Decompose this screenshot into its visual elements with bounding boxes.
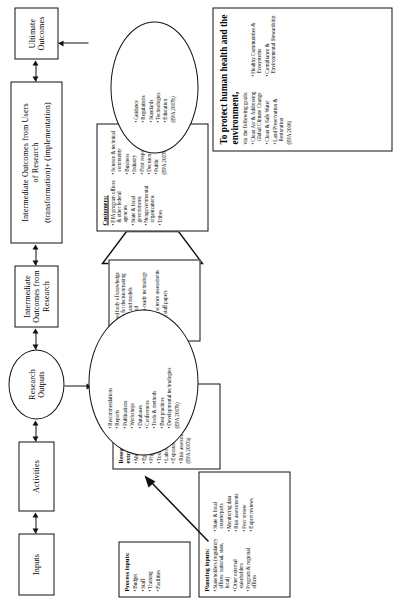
list-item: Publications (121, 336, 127, 428)
arrowhead-up (58, 40, 63, 46)
stage-inputs-label: Inputs (31, 553, 40, 574)
list-item: Staff (139, 546, 145, 591)
list-item: Land Preservation & Restoration (271, 81, 283, 144)
citation: (EPA 2007b) (173, 336, 179, 428)
list-item: Standards (147, 52, 153, 122)
stage-research-outputs-line2: Outputs (36, 371, 45, 398)
list-item: Databases (136, 336, 142, 428)
arrowhead-right (32, 420, 38, 425)
list-item: Peer review (240, 476, 246, 531)
stage-ultimate-outcomes: Ultimate Outcomes (14, 7, 58, 59)
arrowhead-left (32, 260, 38, 265)
stage-ultimate-line2: Outcomes (36, 16, 45, 50)
stage-ioc-research-line1: Intermediate (22, 275, 31, 318)
list-item: Guidance (132, 52, 138, 122)
stage-activities-label: Activities (31, 460, 40, 493)
list-item: Program & regional offices (244, 536, 256, 591)
list-item: Recommendations (106, 336, 112, 428)
stage-activities: Activities (18, 441, 54, 511)
list-item: Tools & methods (150, 336, 156, 428)
rotated-diagram-wrapper: Inputs Activities Research Outputs Inter… (0, 0, 402, 603)
stage-ioc-research-line3: Research (41, 281, 50, 312)
list-item: Reports (113, 336, 119, 428)
connector-inputs-to-research (140, 471, 212, 543)
stage-ultimate-line1: Ultimate (27, 18, 36, 47)
list-item: EPA program offices & other federal agen… (109, 179, 127, 225)
list-item: Monitoring data (225, 476, 231, 531)
list-item: Healthy Communities & Ecosystems (249, 13, 261, 76)
list-item: Technologies (154, 52, 160, 122)
goals-headline: To protect human health and the environm… (218, 13, 240, 144)
planning-inputs-list: Stakeholders (regulatory offices: nation… (211, 476, 256, 591)
research-outputs-list: Recommendations Reports Publications Wor… (106, 336, 179, 428)
customers-heading: Customers: (101, 128, 108, 225)
arrowhead-left (32, 528, 38, 533)
list-item: Clean & Safe Water (263, 81, 269, 144)
list-item: Clean Air & Addressing Global Climate Ch… (249, 81, 261, 144)
process-inputs-list: Budget Staff Training Facilities (131, 546, 159, 591)
list-item: State & local governments (129, 179, 141, 225)
connector-outputs-down (64, 385, 88, 386)
citation: (EPA 2006) (285, 13, 291, 144)
connector-outcomes-to-customers (100, 229, 204, 263)
logic-model-canvas: Inputs Activities Research Outputs Inter… (0, 0, 402, 603)
arrowhead-left (32, 436, 38, 441)
list-item: Budget (131, 546, 137, 591)
citation: (EPA 2007b) (169, 52, 175, 122)
stage-intermediate-outcomes-users: Intermediate Outcomes from Users of Rese… (10, 81, 62, 243)
list-item: Workshops (128, 336, 134, 428)
stage-research-outputs-line1: Research (27, 369, 36, 400)
arrowhead-right (32, 512, 38, 517)
arrowhead-left (32, 344, 38, 349)
goals-box: To protect human health and the environm… (212, 7, 392, 151)
list-item: Stakeholders (regulatory offices: nation… (211, 536, 229, 591)
user-outcomes-content: Guidance Regulations Standards Technolog… (132, 52, 176, 122)
stage-ioc-users-line2: of Research (30, 142, 39, 182)
goals-subline: via the following goals: (241, 13, 248, 144)
list-item: Tribes (156, 179, 162, 225)
research-outputs-oval: Recommendations Reports Publications Wor… (88, 309, 198, 455)
process-inputs-box: Process inputs: Budget Staff Training Fa… (118, 541, 190, 597)
stage-research-outputs: Research Outputs (8, 349, 64, 419)
list-item: Training (146, 546, 152, 591)
list-item: Compliance & Environmental Stewardship (263, 13, 275, 76)
arrowhead-right (32, 328, 38, 333)
arrowhead-right (32, 244, 38, 249)
stage-inputs: Inputs (18, 533, 54, 595)
list-item: Other external stakeholders (231, 536, 243, 591)
list-item: Regulations (139, 52, 145, 122)
list-item: Facilities (154, 546, 160, 591)
stage-ioc-users-line3: (transformation)+ (implementation) (42, 102, 51, 223)
stage-ioc-research-line2: Outcomes from (31, 270, 40, 322)
arrowhead-left (32, 76, 38, 81)
stage-ioc-users-line1: Intermediate Outcomes from Users (20, 103, 29, 221)
process-inputs-heading: Process inputs: (123, 546, 130, 591)
list-item: Expert reviews (247, 476, 253, 531)
research-outputs-content: Recommendations Reports Publications Wor… (106, 336, 180, 428)
user-outcomes-list: Guidance Regulations Standards Technolog… (132, 52, 175, 122)
list-item: Best practices (158, 336, 164, 428)
list-item: State & local counterparts (211, 476, 223, 531)
stage-intermediate-outcomes-research: Intermediate Outcomes from Research (14, 265, 58, 327)
list-item: Education (161, 52, 167, 122)
user-outcomes-oval: Guidance Regulations Standards Technolog… (110, 21, 198, 153)
arrowhead-right (32, 60, 38, 65)
goals-list: Clean Air & Addressing Global Climate Ch… (249, 13, 283, 144)
list-item: Risk assessments (232, 476, 238, 531)
list-item: Conferences (143, 336, 149, 428)
list-item: Nongovernmental organizations (142, 179, 154, 225)
list-item: Developmental technologies (165, 336, 171, 428)
